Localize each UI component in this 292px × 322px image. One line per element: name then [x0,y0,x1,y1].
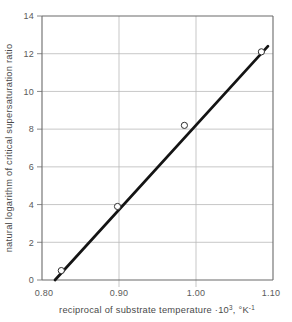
ytick-label: 2 [29,238,34,248]
ytick-label: 12 [24,49,34,59]
xtick-label: 1.00 [187,288,205,298]
data-point [114,203,120,209]
chart-plot-area: 0 2 4 6 8 10 12 14 0.80 0.90 1.00 1.10 r… [0,0,292,322]
xtick-label: 0.90 [110,288,128,298]
y-axis-tick-labels: 0 2 4 6 8 10 12 14 [24,11,34,285]
ytick-label: 8 [29,124,34,134]
x-axis-title: reciprocal of substrate temperature ·103… [59,304,255,315]
chart-figure: 0 2 4 6 8 10 12 14 0.80 0.90 1.00 1.10 r… [0,0,292,322]
x-axis-tick-labels: 0.80 0.90 1.00 1.10 [35,288,280,298]
data-point [258,49,264,55]
xtick-label: 1.10 [262,288,280,298]
plot-background [42,16,273,280]
x-axis-title-tail-exponent: -1 [249,304,255,311]
ytick-label: 14 [24,11,34,21]
y-axis-ticks [37,16,42,280]
ytick-label: 4 [29,200,34,210]
xtick-label: 0.80 [35,288,53,298]
data-point [181,122,187,128]
ytick-label: 0 [29,275,34,285]
data-point [58,267,64,273]
ytick-label: 10 [24,87,34,97]
x-axis-title-tail: , °K [233,305,250,315]
y-axis-title: natural logarithm of critical supersatur… [4,44,14,253]
ytick-label: 6 [29,162,34,172]
x-axis-title-main: reciprocal of substrate temperature ·10 [59,305,229,315]
